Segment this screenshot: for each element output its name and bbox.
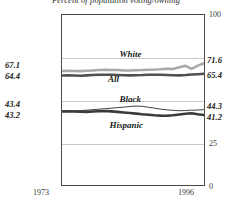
series-annotation-all: All <box>108 74 119 84</box>
right-endpoint-hispanic: 41.2 <box>207 112 222 122</box>
series-annotation-hispanic: Hispanic <box>110 120 144 130</box>
left-endpoint-all: 64.4 <box>5 71 20 81</box>
series-line-black <box>62 106 204 111</box>
series-line-white <box>62 63 204 71</box>
left-endpoint-black: 43.4 <box>5 99 20 109</box>
left-endpoint-hispanic: 43.2 <box>5 110 20 120</box>
xtick-label-end: 1996 <box>178 188 194 197</box>
left-endpoint-white: 67.1 <box>5 60 20 70</box>
ytick-label-25: 25 <box>209 139 217 148</box>
right-endpoint-white: 71.6 <box>207 55 222 65</box>
right-endpoint-black: 44.3 <box>207 101 222 111</box>
right-endpoint-all: 65.4 <box>207 70 222 80</box>
xtick-label-start: 1973 <box>33 188 49 197</box>
chart-title: Percent of population voting/owning <box>0 0 232 5</box>
series-line-hispanic <box>62 111 204 116</box>
plot-area: White All Black Hispanic <box>61 14 205 186</box>
series-annotation-white: White <box>120 49 142 59</box>
series-annotation-black: Black <box>120 94 142 104</box>
ytick-label-100: 100 <box>209 10 221 19</box>
ytick-label-0: 0 <box>209 182 213 191</box>
chart-figure: Percent of population voting/owning Whit… <box>0 0 232 210</box>
series-line-all <box>62 74 204 76</box>
